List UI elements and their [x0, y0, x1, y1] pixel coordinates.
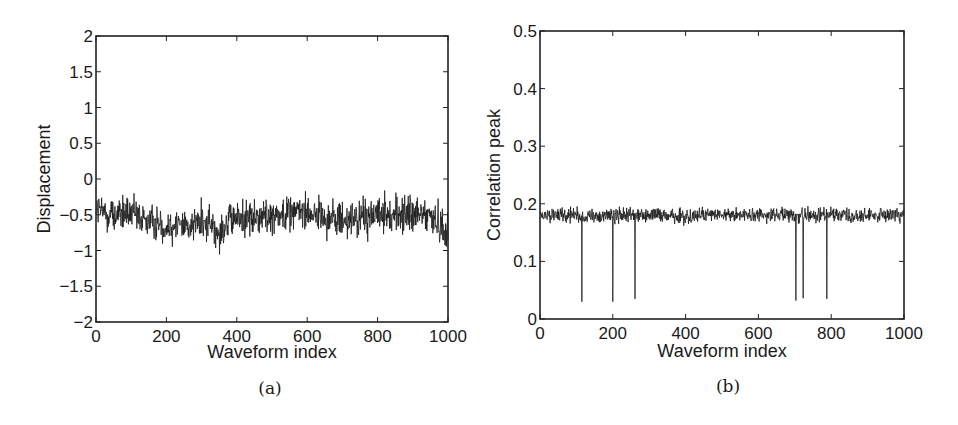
x-tick-label: 800 — [817, 324, 845, 343]
y-tick-label: 1.5 — [69, 63, 93, 82]
x-tick-label: 200 — [152, 327, 180, 346]
y-tick-label: 0.3 — [513, 137, 537, 156]
y-tick-label: 0.1 — [513, 252, 537, 271]
chart-a-x-axis-label: Waveform index — [207, 342, 336, 362]
y-tick-label: 0.5 — [513, 22, 537, 41]
y-tick-label: −0.5 — [59, 206, 93, 225]
chart-a-plot-frame — [96, 36, 448, 322]
chart-b-series-line — [540, 206, 904, 302]
x-tick-label: 1000 — [429, 327, 467, 346]
y-tick-label: 0.5 — [69, 134, 93, 153]
figure: 02004006008001000−2−1.5−1−0.500.511.52 W… — [0, 0, 958, 425]
x-tick-label: 200 — [599, 324, 627, 343]
y-tick-label: 0.4 — [513, 80, 537, 99]
y-tick-label: 1 — [84, 99, 93, 118]
chart-b-axis-ticks: 0200400600800100000.10.20.30.40.5 — [513, 22, 923, 343]
chart-a-displacement: 02004006008001000−2−1.5−1−0.500.511.52 W… — [34, 27, 467, 398]
y-tick-label: −1.5 — [59, 277, 93, 296]
chart-a-series-line — [96, 190, 448, 254]
x-tick-label: 800 — [363, 327, 391, 346]
chart-b-caption: (b) — [716, 376, 740, 396]
chart-a-caption: (a) — [258, 378, 281, 398]
y-tick-label: 2 — [84, 27, 93, 46]
chart-b-y-axis-label: Correlation peak — [484, 108, 504, 241]
chart-a-axis-ticks: 02004006008001000−2−1.5−1−0.500.511.52 — [59, 27, 466, 346]
y-tick-label: −2 — [74, 313, 93, 332]
chart-b-x-axis-label: Waveform index — [657, 341, 786, 361]
chart-b-correlation-peak: 0200400600800100000.10.20.30.40.5 Wavefo… — [484, 22, 923, 396]
y-tick-label: 0.2 — [513, 195, 537, 214]
chart-a-y-axis-label: Displacement — [34, 124, 54, 233]
chart-b-plot-frame — [540, 31, 904, 319]
y-tick-label: −1 — [74, 242, 93, 261]
y-tick-label: 0 — [84, 170, 93, 189]
x-tick-label: 1000 — [885, 324, 923, 343]
y-tick-label: 0 — [528, 310, 537, 329]
